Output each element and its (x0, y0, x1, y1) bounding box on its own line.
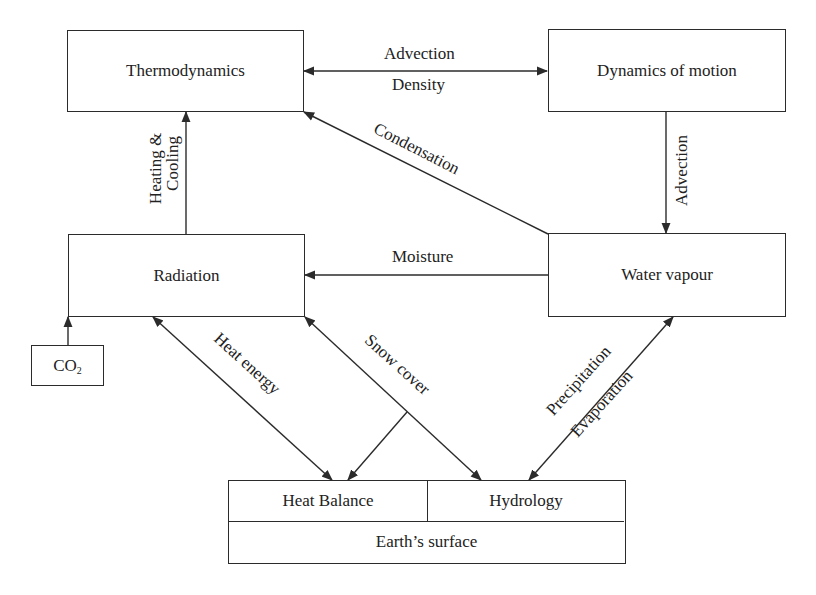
arrow-heat-energy (153, 317, 332, 480)
node-earth-surface-block: Heat Balance Hydrology Earth’s surface (228, 480, 626, 564)
node-dynamics-of-motion: Dynamics of motion (548, 29, 786, 112)
node-label: Hydrology (489, 491, 563, 511)
node-earths-surface: Earth’s surface (229, 522, 624, 562)
node-radiation: Radiation (68, 234, 305, 317)
label-cooling: Cooling (164, 136, 181, 191)
label-moisture: Moisture (392, 248, 453, 265)
node-thermodynamics: Thermodynamics (67, 30, 304, 112)
node-label: Thermodynamics (126, 61, 245, 81)
node-label: Radiation (153, 266, 219, 286)
arrow-snow-cover-branch (348, 412, 407, 480)
climate-system-diagram: Thermodynamics Dynamics of motion Radiat… (0, 0, 816, 595)
node-label: Earth’s surface (376, 532, 477, 552)
node-co2: CO2 (31, 345, 104, 386)
arrow-snow-cover (305, 317, 481, 480)
label-heating: Heating & (147, 133, 164, 204)
node-heat-balance: Heat Balance (229, 481, 428, 522)
node-label: Dynamics of motion (597, 61, 737, 81)
label-advection-top: Advection (384, 45, 455, 62)
label-density: Density (392, 76, 445, 93)
node-label: CO2 (53, 356, 82, 376)
label-advection-right: Advection (673, 135, 690, 206)
node-label: Heat Balance (282, 491, 373, 511)
co2-subscript: 2 (77, 365, 82, 376)
co2-text: CO (53, 356, 77, 375)
node-water-vapour: Water vapour (548, 233, 786, 317)
node-hydrology: Hydrology (428, 481, 624, 522)
node-label: Water vapour (621, 265, 713, 285)
arrow-condensation (304, 112, 548, 234)
